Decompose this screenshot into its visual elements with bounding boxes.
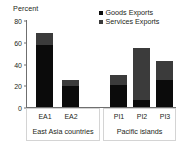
y-tick-label-0: 0 — [18, 105, 22, 112]
y-tick-label-40: 40 — [14, 61, 22, 68]
bar-stack — [133, 48, 150, 107]
y-tick-label-80: 80 — [14, 18, 22, 25]
bar-stack — [110, 75, 127, 107]
bar-segment-pi2-services-exports — [133, 48, 150, 100]
bar-segment-pi1-services-exports — [110, 75, 127, 85]
bar-segment-pi3-services-exports — [156, 61, 173, 79]
bar-segment-pi1-goods-exports — [110, 85, 127, 107]
y-tick-label-60: 60 — [14, 39, 22, 46]
legend-label-goods-exports: Goods Exports — [106, 9, 154, 17]
category-ticks-east-asia: EA1EA2 — [27, 112, 99, 122]
plot-area — [26, 20, 176, 108]
category-band: EA1EA2 East Asia countries PI1PI2PI3 Pac… — [26, 108, 176, 141]
y-axis-title: Percent — [13, 4, 38, 13]
stacked-bar-chart: Percent Goods Exports Services Exports 0… — [0, 0, 179, 147]
group-box-east-asia-countries: EA1EA2 East Asia countries — [26, 108, 100, 141]
bar-segment-ea1-services-exports — [36, 33, 53, 45]
category-label-ea2: EA2 — [57, 112, 85, 121]
legend-item-goods-exports: Goods Exports — [99, 9, 159, 17]
bar-stack — [62, 80, 79, 107]
bar-segment-ea1-goods-exports — [36, 45, 53, 107]
bar-series-container — [27, 20, 176, 107]
group-box-pacific-islands: PI1PI2PI3 Pacific islands — [103, 108, 176, 141]
category-label-ea1: EA1 — [31, 112, 59, 121]
bar-stack — [156, 61, 173, 107]
y-tick-label-20: 20 — [14, 83, 22, 90]
group-label-pacific-islands: Pacific islands — [104, 127, 175, 136]
category-label-pi3: PI3 — [151, 112, 179, 121]
category-ticks-pacific-islands: PI1PI2PI3 — [104, 112, 175, 122]
y-axis-ticks: 020406080 — [0, 20, 26, 108]
bar-segment-pi2-goods-exports — [133, 100, 150, 107]
bar-segment-ea2-goods-exports — [62, 86, 79, 107]
goods-swatch-icon — [99, 11, 103, 15]
bar-stack — [36, 33, 53, 107]
group-label-east-asia-countries: East Asia countries — [27, 127, 99, 136]
bar-segment-pi3-goods-exports — [156, 80, 173, 107]
